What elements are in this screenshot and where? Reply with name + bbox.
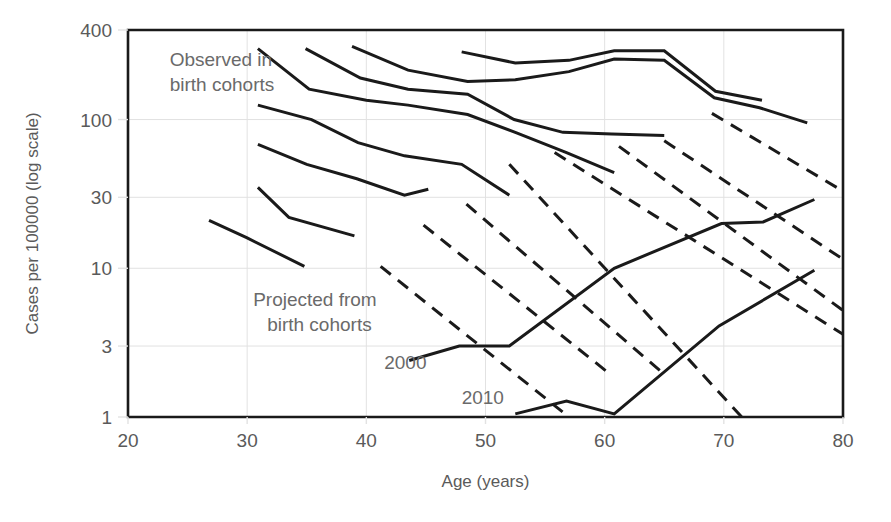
x-tick-labels: 20304050607080 (117, 430, 853, 451)
y-tick-label-3: 3 (101, 336, 112, 357)
chart-figure: 20304050607080 131030100400 Age (years)C… (0, 0, 891, 522)
series-observed-cohort-1 (209, 220, 304, 266)
x-tick-label-60: 60 (594, 430, 615, 451)
annotation-label-2010: 2010 (462, 387, 504, 408)
x-tick-label-30: 30 (237, 430, 258, 451)
series-layer (209, 46, 843, 417)
series-observed-cohort-3 (258, 144, 428, 195)
cancer-incidence-line-chart: 20304050607080 131030100400 Age (years)C… (0, 0, 891, 522)
y-tick-label-1: 1 (101, 407, 112, 428)
x-tick-label-40: 40 (356, 430, 377, 451)
x-tick-label-80: 80 (832, 430, 853, 451)
x-axis-title: Age (years) (442, 472, 530, 491)
series-observed-cohort-8 (462, 51, 762, 100)
annotation-observed-line2: birth cohorts (170, 74, 275, 95)
series-projected-5 (555, 153, 843, 335)
series-observed-cohort-5 (258, 49, 614, 173)
y-tick-label-400: 400 (80, 20, 112, 41)
x-tick-label-20: 20 (117, 430, 138, 451)
series-period-2010 (515, 270, 814, 414)
y-tick-labels: 131030100400 (80, 20, 112, 428)
x-tick-label-70: 70 (713, 430, 734, 451)
series-observed-cohort-4 (258, 105, 509, 195)
x-tick-label-50: 50 (475, 430, 496, 451)
y-tick-label-30: 30 (91, 187, 112, 208)
series-projected-8 (712, 113, 843, 191)
annotation-observed-line1: Observed in (170, 49, 272, 70)
annotations-layer: Observed inbirth cohortsProjected frombi… (170, 49, 504, 408)
y-tick-label-10: 10 (91, 258, 112, 279)
annotation-projected-line2: birth cohorts (267, 314, 372, 335)
y-axis-title: Cases per 100000 (log scale) (23, 112, 42, 334)
series-observed-cohort-2 (258, 187, 355, 236)
annotation-projected-line1: Projected from (253, 289, 377, 310)
series-projected-4 (509, 164, 741, 417)
y-tick-label-100: 100 (80, 110, 112, 131)
annotation-label-2000: 2000 (384, 352, 426, 373)
